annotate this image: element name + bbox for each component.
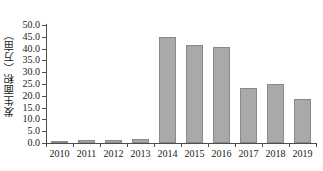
- bar: [294, 99, 311, 143]
- bar-slot: [289, 25, 316, 143]
- bar-slot: [235, 25, 262, 143]
- y-axis-title: 发生面积（万亩）: [0, 0, 20, 145]
- bar-series: [46, 25, 316, 143]
- bar: [267, 84, 284, 143]
- bar-chart-figure: 发生面积（万亩） 0.05.010.015.020.025.030.035.04…: [0, 0, 323, 171]
- bar-slot: [208, 25, 235, 143]
- bar-slot: [262, 25, 289, 143]
- x-tick-label: 2019: [283, 149, 323, 159]
- x-tick-mark: [316, 143, 317, 147]
- x-tick-mark: [73, 143, 74, 147]
- bar-slot: [46, 25, 73, 143]
- y-tick-label: 40.0: [23, 44, 41, 54]
- bar: [132, 139, 149, 143]
- y-tick-label: 30.0: [23, 67, 41, 77]
- y-tick-label: 5.0: [28, 126, 41, 136]
- x-tick-mark: [100, 143, 101, 147]
- y-tick-label: 25.0: [23, 79, 41, 89]
- bar: [186, 45, 203, 143]
- plot-area: 0.05.010.015.020.025.030.035.040.045.050…: [46, 25, 316, 143]
- x-tick-mark: [289, 143, 290, 147]
- bar-slot: [73, 25, 100, 143]
- x-tick-mark: [262, 143, 263, 147]
- bar: [51, 141, 68, 143]
- y-tick-label: 0.0: [28, 138, 41, 148]
- bar: [105, 140, 122, 143]
- x-tick-mark: [208, 143, 209, 147]
- y-tick-label: 35.0: [23, 55, 41, 65]
- x-tick-mark: [154, 143, 155, 147]
- bar-slot: [154, 25, 181, 143]
- y-tick-label: 15.0: [23, 103, 41, 113]
- bar: [78, 140, 95, 143]
- x-tick-mark: [181, 143, 182, 147]
- x-tick-mark: [46, 143, 47, 147]
- y-tick-label: 50.0: [23, 20, 41, 30]
- x-tick-mark: [235, 143, 236, 147]
- x-tick-mark: [127, 143, 128, 147]
- y-tick-label: 45.0: [23, 32, 41, 42]
- bar: [159, 37, 176, 143]
- y-tick-label: 20.0: [23, 91, 41, 101]
- bar: [240, 88, 257, 143]
- bar-slot: [100, 25, 127, 143]
- y-axis-title-label: 发生面积（万亩）: [5, 29, 16, 117]
- bar-slot: [181, 25, 208, 143]
- bar: [213, 47, 230, 143]
- y-tick-label: 10.0: [23, 114, 41, 124]
- bar-slot: [127, 25, 154, 143]
